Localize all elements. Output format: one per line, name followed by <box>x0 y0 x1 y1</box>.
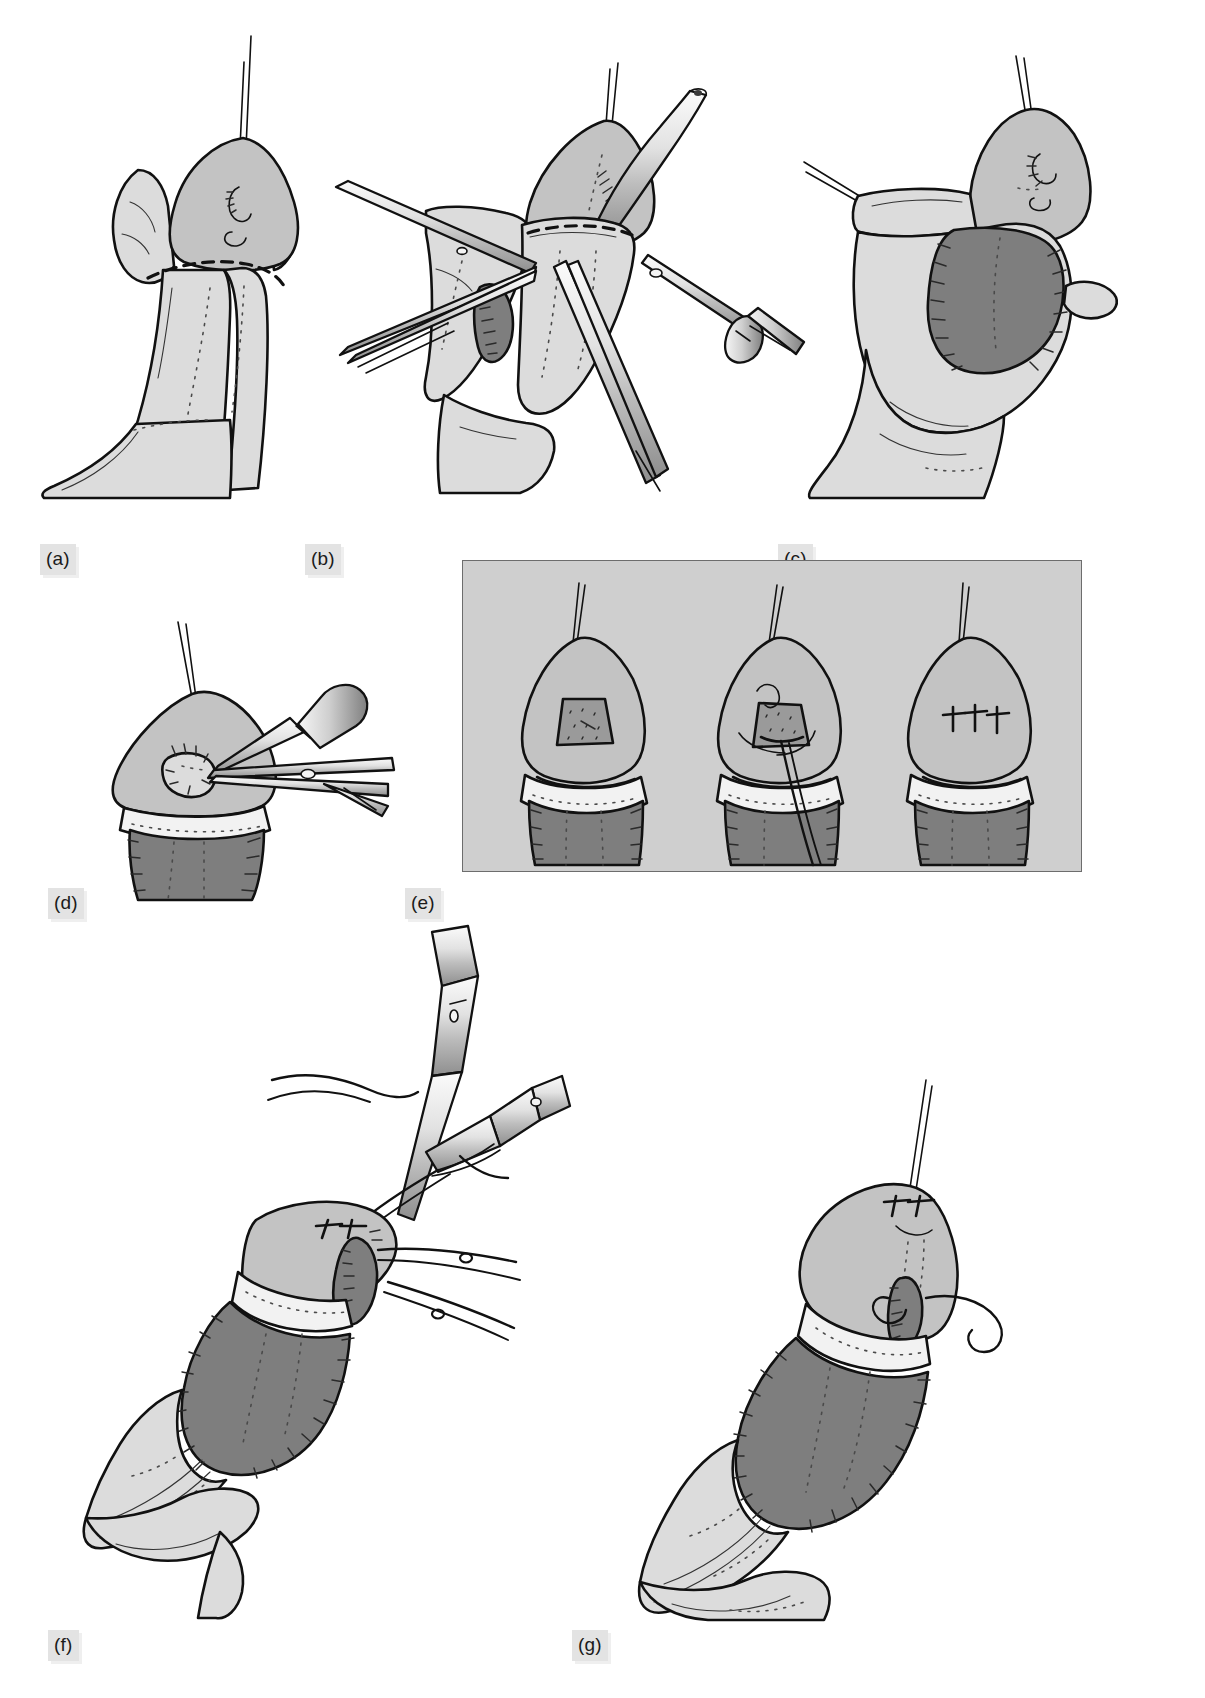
panel-e-sub-3 <box>879 579 1069 865</box>
meatal-defect-e1 <box>557 699 613 745</box>
traction-suture-e3 <box>959 583 969 643</box>
panel-e-sub-2 <box>685 579 875 865</box>
panel-b-illustration <box>330 55 770 495</box>
flat-retractor-b <box>642 255 763 362</box>
forceps-tip-c <box>748 308 804 354</box>
panel-label-a: (a) <box>40 544 76 575</box>
needle-holder-upper-f <box>398 926 478 1220</box>
traction-suture-d <box>178 622 196 698</box>
traction-suture-g <box>910 1080 932 1190</box>
cuff-wing-right-c <box>1064 282 1117 319</box>
panel-label-g: (g) <box>572 1630 608 1661</box>
panel-d-illustration <box>58 580 408 900</box>
prepuce-left-lobe-a <box>113 170 174 283</box>
panel-f-illustration <box>70 920 570 1620</box>
panel-label-b: (b) <box>305 544 341 575</box>
glans-e3 <box>908 638 1031 783</box>
panel-label-e: (e) <box>405 888 441 919</box>
figure-plate: (a) <box>0 0 1205 1698</box>
panel-g-illustration <box>610 1070 1030 1620</box>
panel-a-illustration <box>18 20 318 500</box>
panel-e-inset-box <box>462 560 1082 872</box>
panel-c-illustration <box>748 50 1118 500</box>
traction-suture-b <box>606 63 618 125</box>
suture-strand-lower-f <box>388 1282 514 1328</box>
suture-knot-upper-f <box>460 1254 472 1263</box>
traction-suture-c <box>1016 56 1032 116</box>
traction-suture-a <box>240 36 251 148</box>
panel-label-f: (f) <box>48 1630 79 1661</box>
panel-label-d: (d) <box>48 888 84 919</box>
panel-e-sub-1 <box>491 579 681 865</box>
traction-suture-e2 <box>769 585 783 643</box>
traction-suture-e1 <box>573 583 585 643</box>
